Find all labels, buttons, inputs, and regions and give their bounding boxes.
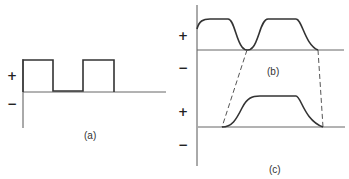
panel-a-plus-label: + — [7, 69, 17, 83]
panel-b-waveform — [197, 19, 318, 50]
panel-a: + − (a) — [7, 59, 166, 141]
panel-c-plus-label: + — [178, 105, 188, 119]
panel-b-caption: (b) — [267, 66, 279, 77]
panel-b-plus-label: + — [178, 29, 188, 43]
panel-a-minus-label: − — [7, 97, 17, 111]
panel-c-minus-label: − — [178, 138, 188, 152]
panel-c-caption: (c) — [269, 164, 281, 175]
panel-c: + − (c) — [178, 96, 345, 175]
panel-b-minus-label: − — [178, 61, 188, 75]
panel-c-waveform — [222, 96, 323, 127]
dashed-connector-right — [318, 50, 323, 127]
waveform-diagram: + − (a) + − (b) + − (c) — [0, 0, 349, 179]
panel-a-square-wave — [23, 60, 114, 92]
panel-a-caption: (a) — [84, 130, 96, 141]
dashed-connector-left — [222, 50, 247, 127]
